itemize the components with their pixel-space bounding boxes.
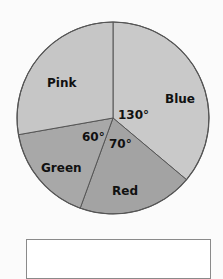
angle-green: 60° [82,130,105,144]
pie-chart: Pink Blue Green Red 130° 60° 70° [0,0,223,240]
label-blue: Blue [165,92,195,106]
label-green: Green [41,161,82,175]
label-pink: Pink [47,76,77,90]
angle-red: 70° [109,137,132,151]
angle-blue: 130° [118,108,149,122]
answer-box[interactable] [26,239,211,279]
label-red: Red [112,184,138,198]
